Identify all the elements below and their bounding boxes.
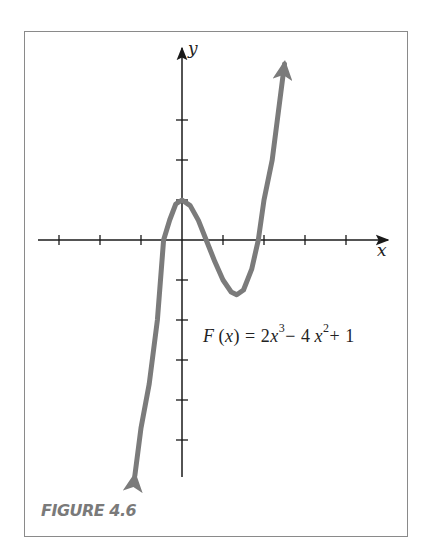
y-axis-label: y xyxy=(188,38,198,58)
equation-term: x xyxy=(270,326,279,346)
plot-area xyxy=(0,0,432,545)
figure-caption: FIGURE 4.6 xyxy=(41,501,136,520)
equation-term: − 4 xyxy=(285,326,310,346)
equation-exponent: 3 xyxy=(279,321,286,335)
equation-term: + 1 xyxy=(330,326,355,346)
equation-term: = 2 xyxy=(245,326,270,346)
y-axis xyxy=(176,48,188,477)
equation-function-name: F xyxy=(203,326,215,346)
function-equation: F (x) = 2x3− 4 x2+ 1 xyxy=(203,324,355,347)
equation-exponent: 2 xyxy=(323,321,330,335)
x-axis-label: x xyxy=(377,240,387,260)
equation-variable: x xyxy=(225,326,234,346)
x-axis xyxy=(38,235,388,245)
function-curve xyxy=(135,64,285,476)
equation-term: x xyxy=(315,326,324,346)
